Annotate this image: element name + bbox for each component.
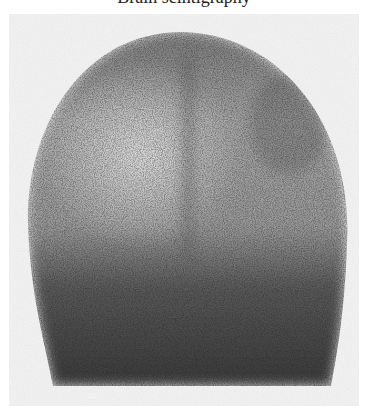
scan-image — [9, 14, 359, 406]
image-caption: Brain scintigraphy — [0, 0, 368, 6]
head-scan-graphic — [9, 14, 359, 406]
